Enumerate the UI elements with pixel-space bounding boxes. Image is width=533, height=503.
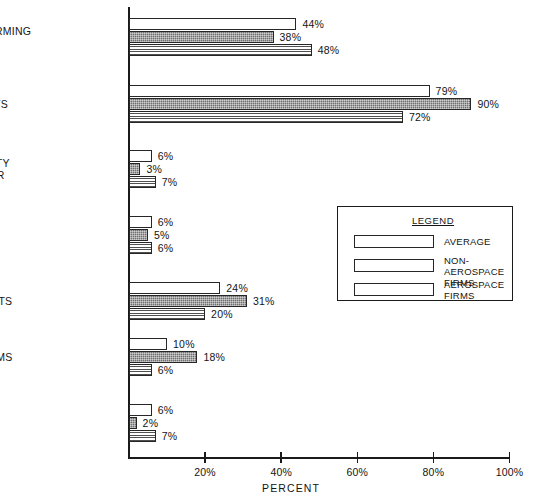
bar-value-label: 90% bbox=[477, 98, 499, 110]
bar-value-label: 10% bbox=[173, 338, 195, 350]
bar-value-label: 6% bbox=[158, 242, 174, 254]
bar-value-label: 6% bbox=[158, 150, 174, 162]
x-axis-tick bbox=[509, 452, 511, 463]
bar bbox=[129, 176, 156, 188]
bar bbox=[129, 282, 220, 294]
bar bbox=[129, 31, 274, 43]
bar-value-label: 2% bbox=[143, 417, 159, 429]
bar bbox=[129, 150, 152, 162]
x-axis-tick-label: 40% bbox=[270, 466, 292, 478]
bar-value-label: 6% bbox=[158, 404, 174, 416]
legend-label: AVERAGE bbox=[444, 236, 491, 247]
bar-value-label: 24% bbox=[226, 282, 248, 294]
bar-value-label: 44% bbox=[302, 18, 324, 30]
bar-value-label: 20% bbox=[211, 308, 233, 320]
bar-value-label: 6% bbox=[158, 364, 174, 376]
bar bbox=[129, 44, 312, 56]
legend-swatch bbox=[354, 283, 434, 296]
x-axis-line bbox=[128, 457, 510, 459]
bar bbox=[129, 404, 152, 416]
bar-value-label: 79% bbox=[436, 85, 458, 97]
bar-value-label: 31% bbox=[253, 295, 275, 307]
bar-value-label: 5% bbox=[154, 229, 170, 241]
category-label: BRAINSTORMING SESSIONS bbox=[0, 25, 120, 49]
x-axis-tick-label: 60% bbox=[346, 466, 368, 478]
bar bbox=[129, 364, 152, 376]
legend-swatch bbox=[354, 235, 434, 248]
x-axis-tick bbox=[357, 452, 359, 463]
legend-label: AEROSPACE FIRMS bbox=[444, 279, 504, 301]
bar-value-label: 72% bbox=[409, 111, 431, 123]
bar bbox=[129, 163, 140, 175]
legend-title: LEGEND bbox=[412, 215, 454, 226]
bar bbox=[129, 216, 152, 228]
bar bbox=[129, 242, 152, 254]
category-label: ERROR LISTS bbox=[0, 295, 120, 307]
x-axis-tick-label: 100% bbox=[496, 466, 524, 478]
x-axis-title: PERCENT bbox=[262, 482, 320, 494]
bar-value-label: 48% bbox=[318, 44, 340, 56]
x-axis-tick-label: 20% bbox=[194, 466, 216, 478]
bar bbox=[129, 295, 247, 307]
bar bbox=[129, 351, 197, 363]
category-label: LOGIC ANALYZER bbox=[0, 411, 120, 435]
bar-value-label: 7% bbox=[162, 430, 178, 442]
bar-value-label: 7% bbox=[162, 176, 178, 188]
bar bbox=[129, 85, 430, 97]
bar bbox=[129, 98, 471, 110]
bar-chart: 20%40%60%80%100% PERCENT BRAINSTORMING S… bbox=[0, 0, 533, 503]
x-axis-tick bbox=[280, 452, 282, 463]
bar-value-label: 3% bbox=[146, 163, 162, 175]
bar bbox=[129, 229, 148, 241]
bar bbox=[129, 308, 205, 320]
category-label: DATABASE ANALYZER bbox=[0, 223, 120, 247]
bar bbox=[129, 338, 167, 350]
category-label: COMPLEXITY AQNALYZER bbox=[0, 157, 120, 181]
bar-value-label: 18% bbox=[203, 351, 225, 363]
bar bbox=[129, 18, 296, 30]
legend-box: LEGEND AVERAGENON-AEROSPACE FIRMSAEROSPA… bbox=[337, 206, 513, 301]
bar bbox=[129, 430, 156, 442]
category-label: CHECKLISTS bbox=[0, 98, 120, 110]
bar bbox=[129, 417, 137, 429]
x-axis-tick bbox=[433, 452, 435, 463]
bar-value-label: 38% bbox=[280, 31, 302, 43]
legend-swatch bbox=[354, 259, 434, 272]
category-label: HISTOGRAMS bbox=[0, 351, 120, 363]
bar bbox=[129, 111, 403, 123]
bar-value-label: 6% bbox=[158, 216, 174, 228]
x-axis-tick-label: 80% bbox=[423, 466, 445, 478]
x-axis-tick bbox=[204, 452, 206, 463]
